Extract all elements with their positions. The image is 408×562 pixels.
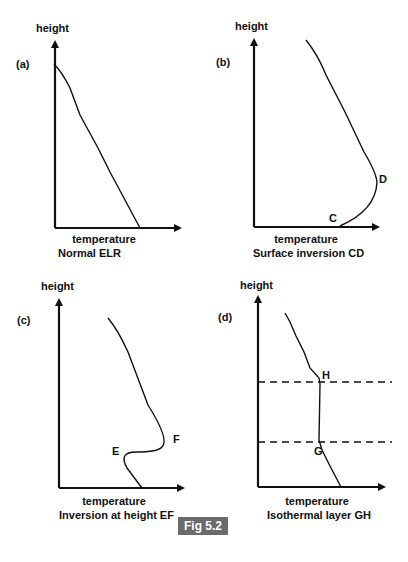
y-axis-label-c: height	[41, 280, 74, 292]
point-label-f: F	[173, 433, 180, 445]
point-label-h: H	[322, 369, 330, 381]
panel-b-graph	[254, 40, 378, 227]
x-axis-label-a: temperature	[72, 233, 136, 245]
panel-title-b: Surface inversion CD	[253, 247, 364, 259]
panel-title-c: Inversion at height EF	[59, 509, 174, 521]
point-label-c: C	[329, 212, 337, 224]
panel-tag-a: (a)	[16, 58, 29, 70]
curve-a	[54, 64, 140, 228]
point-label-e: E	[112, 445, 119, 457]
panel-a-graph	[54, 42, 180, 228]
y-axis-label-d: height	[240, 279, 273, 291]
x-axis-label-d: temperature	[285, 495, 349, 507]
figure-caption-badge: Fig 5.2	[178, 517, 228, 535]
point-label-d: D	[379, 173, 387, 185]
point-label-g: G	[314, 445, 323, 457]
y-axis-label-a: height	[36, 22, 69, 34]
panel-tag-c: (c)	[17, 314, 30, 326]
panel-tag-b: (b)	[216, 56, 230, 68]
y-axis-label-b: height	[235, 20, 268, 32]
panel-c-graph	[59, 300, 183, 488]
x-axis-label-b: temperature	[274, 233, 338, 245]
panel-tag-d: (d)	[218, 311, 232, 323]
curve-c	[108, 318, 164, 488]
curve-d	[285, 313, 341, 487]
panel-title-d: Isothermal layer GH	[267, 509, 371, 521]
panel-d-graph	[258, 297, 392, 487]
x-axis-label-c: temperature	[82, 495, 146, 507]
panel-title-a: Normal ELR	[58, 247, 121, 259]
curve-b	[306, 40, 377, 226]
